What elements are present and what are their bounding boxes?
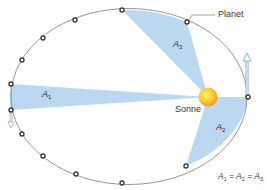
- orbit-figure: [0, 0, 267, 190]
- area-a1-subscript: 1: [48, 94, 51, 100]
- planet-dot: [41, 154, 45, 158]
- equal-areas-equation: A1 = A2 = A3: [218, 172, 263, 183]
- area-a3-subscript: 3: [179, 44, 182, 50]
- planet-dot: [9, 82, 13, 86]
- eq-sub-3: 3: [260, 176, 263, 182]
- eq-sign-2: =: [245, 171, 254, 181]
- planet-dot: [184, 164, 188, 168]
- eq-sign-1: =: [227, 171, 236, 181]
- sun-label: Sonne: [175, 105, 201, 114]
- area-a3-label: A3: [173, 40, 182, 50]
- planet-dot: [9, 108, 13, 112]
- planet-dot: [41, 36, 45, 40]
- sector-a3: [122, 10, 208, 97]
- planet-dot: [73, 18, 77, 22]
- area-a2-subscript: 2: [222, 127, 225, 133]
- planet-dot: [74, 172, 78, 176]
- planet-leader-line: [188, 15, 215, 21]
- area-a1-label: A1: [42, 90, 51, 100]
- planet-dot: [246, 95, 250, 99]
- planet-dot: [120, 181, 124, 185]
- planet-dot: [185, 20, 189, 24]
- sun-icon: [199, 88, 218, 107]
- area-a2-label: A2: [216, 123, 225, 133]
- planet-dot: [20, 58, 24, 62]
- planet-label: Planet: [218, 10, 244, 19]
- kepler-second-law-diagram: Planet Sonne A1 A2 A3 A1 = A2 = A3: [0, 0, 267, 190]
- planet-dot: [120, 8, 124, 12]
- velocity-arrow-up-icon: [243, 53, 251, 96]
- planet-dot: [20, 132, 24, 136]
